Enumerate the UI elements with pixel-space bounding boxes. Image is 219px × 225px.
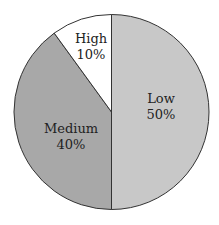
label-high-pct: 10% — [77, 47, 106, 62]
label-medium-name: Medium — [44, 121, 98, 136]
label-medium-pct: 40% — [57, 137, 86, 152]
label-low-pct: 50% — [147, 107, 176, 122]
pie-chart: High 10% Low 50% Medium 40% — [0, 0, 219, 225]
label-high-name: High — [75, 31, 108, 46]
label-low-name: Low — [147, 91, 175, 106]
